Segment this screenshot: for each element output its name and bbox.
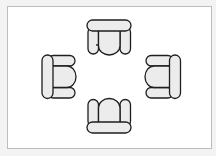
armchair-right-back — [170, 55, 181, 99]
armchair-top-back — [87, 20, 131, 31]
armchair-top-seat — [99, 28, 121, 55]
armchair-bottom-back — [87, 122, 131, 133]
armchair-right[interactable] — [145, 55, 181, 99]
armchair-left[interactable] — [42, 55, 76, 99]
armchair-right-seat — [145, 66, 171, 88]
armchair-top[interactable] — [87, 20, 131, 55]
floor-plan-canvas — [0, 0, 216, 156]
armchair-bottom-seat — [99, 99, 121, 126]
armchair-left-seat — [50, 66, 76, 88]
armchair-left-back — [42, 55, 53, 99]
armchair-top-marker — [96, 44, 98, 46]
armchair-bottom[interactable] — [87, 99, 131, 134]
